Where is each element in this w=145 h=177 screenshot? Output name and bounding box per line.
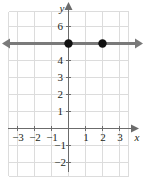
y-tick-label: −2 <box>54 156 66 168</box>
plotted-point <box>98 39 106 47</box>
line-right-arrowhead-icon <box>135 39 143 49</box>
graph-figure: −3 −2 −1 1 2 3 6 4 3 2 1 −1 −2 y x <box>0 0 145 177</box>
coordinate-plane-svg: −3 −2 −1 1 2 3 6 4 3 2 1 −1 −2 y x <box>0 0 145 177</box>
y-tick-label: 3 <box>58 71 64 83</box>
x-axis-label: x <box>134 131 140 143</box>
x-tick-label: 3 <box>117 131 123 143</box>
x-tick-label: 1 <box>83 131 89 143</box>
y-tick-label: 4 <box>58 54 64 66</box>
x-axis-tick-labels: −3 −2 −1 1 2 3 <box>12 131 123 143</box>
y-tick-label: 6 <box>58 20 64 32</box>
x-tick-label: −3 <box>12 131 24 143</box>
y-tick-label: −1 <box>54 139 66 151</box>
y-axis-arrowhead-icon <box>65 2 73 10</box>
x-tick-label: 2 <box>100 131 106 143</box>
plotted-point <box>64 39 72 47</box>
y-tick-label: 2 <box>58 88 64 100</box>
y-axis-label: y <box>59 2 65 14</box>
y-tick-label: 1 <box>58 105 64 117</box>
x-tick-label: −2 <box>29 131 41 143</box>
line-left-arrowhead-icon <box>2 39 10 49</box>
